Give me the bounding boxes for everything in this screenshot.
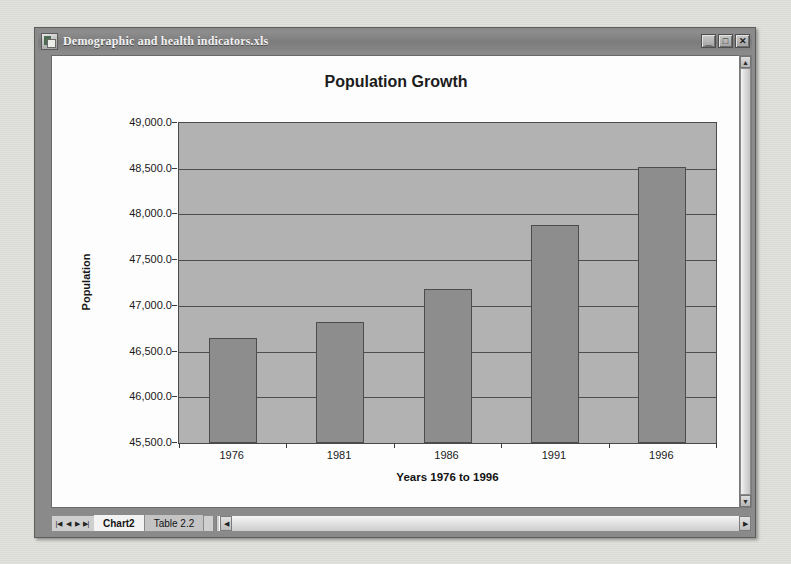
horizontal-scrollbar[interactable]: ◀ ▶ (215, 515, 752, 532)
window-controls: _ □ ✕ (701, 34, 750, 48)
screen: Demographic and health indicators.xls _ … (0, 0, 791, 564)
gridline (179, 260, 716, 261)
x-tick-mark (394, 443, 395, 448)
vertical-scroll-thumb[interactable] (740, 68, 751, 495)
tab-nav-arrow-0[interactable]: |◀ (55, 520, 63, 527)
chart: Population Growth Population 49,000.048,… (52, 56, 740, 507)
y-tick-mark (172, 259, 177, 260)
sheet-tab-table-2-2[interactable]: Table 2.2 (145, 515, 205, 531)
scroll-left-button[interactable]: ◀ (220, 516, 232, 531)
tab-nav-arrow-2[interactable]: ▶ (73, 520, 81, 527)
x-tick-mark (716, 443, 717, 448)
y-tick-label: 48,500.0 (129, 162, 172, 174)
close-button[interactable]: ✕ (735, 34, 750, 48)
window-titlebar[interactable]: Demographic and health indicators.xls _ … (38, 31, 752, 51)
x-tick-mark (609, 443, 610, 448)
application-window: Demographic and health indicators.xls _ … (34, 27, 756, 538)
scroll-up-button[interactable]: ▲ (740, 56, 751, 68)
y-axis-tick-labels: 49,000.048,500.048,000.047,500.047,000.0… (108, 122, 172, 442)
chevron-down-icon: ▼ (742, 498, 749, 505)
scroll-right-button[interactable]: ▶ (739, 516, 751, 531)
sheet-tabs[interactable]: Chart2Table 2.2 (93, 515, 213, 532)
maximize-icon: □ (719, 35, 732, 47)
gridline (179, 169, 716, 170)
chevron-up-icon: ▲ (742, 59, 749, 66)
sheet-tab-bar: |◀◀▶▶| Chart2Table 2.2 ◀ ▶ (51, 515, 752, 532)
x-tick-mark (179, 443, 180, 448)
y-tick-mark (172, 168, 177, 169)
x-tick-label: 1991 (542, 449, 566, 461)
chevron-right-icon: ▶ (743, 520, 748, 527)
chevron-left-icon: ◀ (224, 520, 229, 527)
minimize-icon: _ (702, 35, 715, 47)
gridline (179, 214, 716, 215)
tab-nav-arrow-3[interactable]: ▶| (82, 520, 90, 527)
close-icon: ✕ (736, 35, 749, 47)
x-axis-title: Years 1976 to 1996 (178, 471, 717, 483)
y-tick-label: 45,500.0 (129, 436, 172, 448)
chart-title: Population Growth (52, 73, 740, 91)
tab-nav-arrow-1[interactable]: ◀ (64, 520, 72, 527)
y-tick-label: 47,000.0 (129, 299, 172, 311)
bar[interactable] (316, 322, 364, 443)
x-axis-tick-labels: 19761981198619911996 (178, 449, 717, 465)
y-tick-label: 49,000.0 (129, 116, 172, 128)
scroll-down-button[interactable]: ▼ (740, 495, 751, 507)
x-tick-label: 1976 (219, 449, 243, 461)
x-tick-label: 1986 (434, 449, 458, 461)
x-tick-mark (286, 443, 287, 448)
tab-navigation-buttons[interactable]: |◀◀▶▶| (51, 515, 93, 532)
y-tick-mark (172, 213, 177, 214)
chart-client-area[interactable]: Population Growth Population 49,000.048,… (51, 55, 741, 508)
y-tick-mark (172, 305, 177, 306)
y-tick-label: 47,500.0 (129, 253, 172, 265)
y-tick-mark (172, 442, 177, 443)
vertical-scrollbar[interactable]: ▲ ▼ (739, 55, 752, 508)
x-tick-label: 1981 (327, 449, 351, 461)
y-axis-title: Population (80, 253, 92, 310)
bar[interactable] (531, 225, 579, 443)
maximize-button[interactable]: □ (718, 34, 733, 48)
y-tick-mark (172, 351, 177, 352)
minimize-button[interactable]: _ (701, 34, 716, 48)
bar[interactable] (209, 338, 257, 443)
y-tick-mark (172, 122, 177, 123)
x-tick-label: 1996 (649, 449, 673, 461)
excel-document-icon (41, 33, 58, 50)
y-tick-label: 48,000.0 (129, 207, 172, 219)
y-tick-mark (172, 396, 177, 397)
y-tick-label: 46,500.0 (129, 345, 172, 357)
horizontal-scroll-track[interactable] (232, 516, 739, 531)
plot-area[interactable] (178, 122, 717, 444)
bar[interactable] (424, 289, 472, 444)
y-tick-label: 46,000.0 (129, 390, 172, 402)
sheet-tab-chart2[interactable]: Chart2 (94, 515, 145, 531)
x-tick-mark (501, 443, 502, 448)
window-title: Demographic and health indicators.xls (63, 34, 701, 49)
bar[interactable] (638, 167, 686, 443)
